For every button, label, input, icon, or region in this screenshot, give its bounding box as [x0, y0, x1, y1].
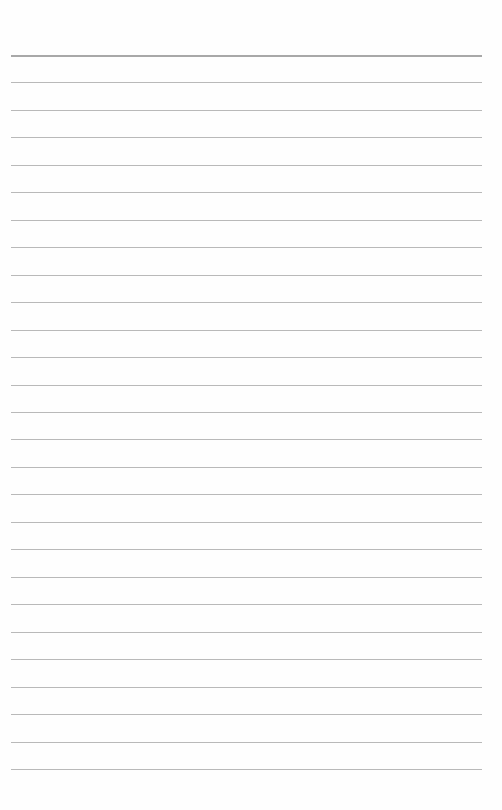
lined-paper-page: [0, 0, 502, 810]
rule-line: [11, 192, 482, 193]
rule-line: [11, 687, 482, 688]
rule-line: [11, 522, 482, 523]
rule-line: [11, 82, 482, 83]
rule-line: [11, 467, 482, 468]
rule-line: [11, 247, 482, 248]
rule-line: [11, 549, 482, 550]
rule-line: [11, 165, 482, 166]
rule-line: [11, 439, 482, 440]
rule-line: [11, 385, 482, 386]
rule-line: [11, 302, 482, 303]
rule-line: [11, 137, 482, 138]
rule-line: [11, 714, 482, 715]
rule-line: [11, 412, 482, 413]
rule-line: [11, 769, 482, 770]
rule-line: [11, 577, 482, 578]
rule-line: [11, 632, 482, 633]
rule-line: [11, 742, 482, 743]
rule-line: [11, 330, 482, 331]
top-rule-line: [11, 55, 482, 57]
rule-line: [11, 357, 482, 358]
rule-line: [11, 494, 482, 495]
rule-line: [11, 275, 482, 276]
rule-line: [11, 220, 482, 221]
rule-line: [11, 110, 482, 111]
rule-line: [11, 604, 482, 605]
rule-line: [11, 659, 482, 660]
